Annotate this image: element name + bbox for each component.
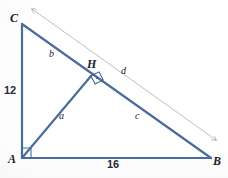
segment-label-d: d [121,66,126,76]
vertex-label-C: C [10,12,18,24]
vertex-label-B: B [213,155,221,167]
measure-label-16: 16 [107,159,119,170]
segment-label-c: c [135,111,139,121]
altitude-AH [22,76,91,158]
geometry-figure [0,0,228,178]
side-CB-hypotenuse [22,24,211,158]
vertex-label-H: H [87,58,96,70]
measure-label-12: 12 [4,85,16,96]
segment-label-a: a [59,111,64,121]
vertex-label-A: A [8,153,16,165]
segment-label-b: b [49,49,54,59]
